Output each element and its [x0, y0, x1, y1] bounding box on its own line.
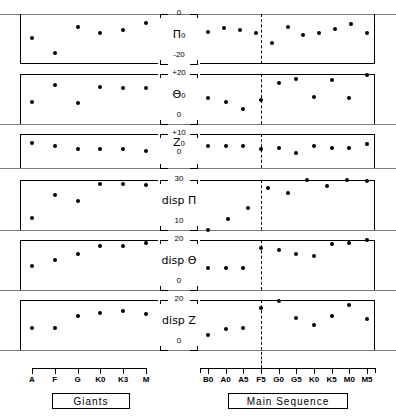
- data-point-disp-pi-giant-1: [53, 193, 57, 197]
- axis-tick-theta0-top-0: [160, 74, 168, 75]
- group-box-giants: Giants: [52, 393, 130, 409]
- data-point-disp-theta-ms-7: [330, 242, 334, 246]
- f5-divider-axis-stub: [261, 352, 262, 368]
- axis-vtick-theta0-top-r: [197, 74, 198, 78]
- panel-frame: [20, 14, 158, 64]
- axis-vtick-pi0-bottom-l: [160, 60, 161, 64]
- data-point-disp-theta-ms-0: [206, 266, 210, 270]
- axis-vtick-pi0-top-l: [160, 14, 161, 18]
- data-point-pi0-ms-0: [206, 30, 210, 34]
- spectral-tick-main-sequence-G0: [279, 368, 280, 374]
- data-point-disp-z-ms-2: [241, 326, 245, 330]
- axis-max-label-theta0: +20: [158, 69, 200, 77]
- data-point-theta0-ms-7: [330, 78, 334, 82]
- axis-tick-disp-pi-top-0: [160, 180, 168, 181]
- axis-tick-pi0-bottom-0: [160, 64, 168, 65]
- figure-root: 0Π₀-20+20Θ₀0+10Z₀030disp Π1020disp Θ020d…: [0, 0, 396, 420]
- data-point-z0-ms-0: [206, 144, 210, 148]
- spectral-tick-giants-K3: [123, 368, 124, 374]
- spectral-tick-main-sequence-A5: [243, 368, 244, 374]
- f5-divider-disp-pi: [261, 180, 262, 230]
- axis-vtick-disp-pi-bottom-r: [197, 226, 198, 230]
- data-point-pi0-giant-0: [30, 36, 34, 40]
- axis-label-z0: +10Z₀0: [158, 129, 200, 173]
- axis-tick-disp-pi-bottom-1: [190, 230, 198, 231]
- axis-vtick-z0-bottom-r: [197, 164, 198, 168]
- data-point-pi0-giant-1: [53, 51, 57, 55]
- axis-vtick-disp-z-bottom-r: [197, 346, 198, 350]
- data-point-disp-theta-ms-3: [259, 246, 263, 250]
- data-point-z0-ms-1: [224, 144, 228, 148]
- axis-vtick-pi0-top-r: [197, 14, 198, 18]
- spectral-label-giants-G: G: [74, 375, 80, 384]
- f5-divider-pi0: [261, 14, 262, 64]
- spectral-tick-giants-F: [55, 368, 56, 374]
- data-point-disp-z-giant-5: [144, 312, 148, 316]
- axis-min-label-disp-theta: 0: [158, 277, 200, 285]
- data-point-theta0-giant-0: [30, 100, 34, 104]
- axis-vtick-theta0-bottom-l: [160, 120, 161, 124]
- data-point-disp-pi-giant-0: [30, 216, 34, 220]
- axis-tick-theta0-bottom-0: [160, 124, 168, 125]
- panel-theta0-giants: [20, 74, 158, 124]
- data-point-disp-pi-giant-2: [76, 199, 80, 203]
- axis-min-label-z0: 0: [158, 148, 200, 156]
- data-point-theta0-giant-5: [144, 86, 148, 90]
- spectral-label-main-sequence-F5: F5: [256, 375, 265, 384]
- axis-tick-pi0-bottom-1: [190, 64, 198, 65]
- data-point-disp-z-giant-2: [76, 314, 80, 318]
- axis-vtick-disp-z-top-r: [197, 300, 198, 304]
- data-point-disp-theta-giant-5: [144, 241, 148, 245]
- data-point-z0-giant-1: [53, 144, 57, 148]
- spectral-label-main-sequence-G5: G5: [291, 375, 302, 384]
- data-point-disp-z-ms-3: [259, 306, 263, 310]
- axis-symbol-disp-theta: disp Θ: [158, 255, 200, 266]
- axis-min-label-disp-z: 0: [158, 337, 200, 345]
- panel-z0-main-sequence: [200, 134, 375, 168]
- axis-vtick-disp-pi-bottom-l: [160, 226, 161, 230]
- axis-vtick-disp-theta-top-r: [197, 240, 198, 244]
- data-point-z0-ms-8: [347, 146, 351, 150]
- axis-tick-theta0-bottom-1: [190, 124, 198, 125]
- axis-min-label-disp-pi: 10: [158, 217, 200, 225]
- spectral-label-giants-A: A: [29, 375, 35, 384]
- axis-label-pi0: 0Π₀-20: [158, 9, 200, 69]
- data-point-disp-pi-ms-0: [206, 228, 210, 232]
- axis-tick-pi0-top-0: [160, 14, 168, 15]
- data-point-z0-giant-0: [30, 141, 34, 145]
- spectral-label-giants-M: M: [143, 375, 150, 384]
- data-point-z0-ms-4: [277, 146, 281, 150]
- axis-vtick-z0-top-r: [197, 134, 198, 138]
- panel-frame: [200, 300, 375, 350]
- data-point-disp-pi-giant-4: [121, 182, 125, 186]
- panel-frame: [20, 134, 158, 168]
- axis-symbol-disp-pi: disp Π: [158, 195, 200, 206]
- data-point-pi0-giant-2: [76, 25, 80, 29]
- spectral-label-main-sequence-A0: A0: [221, 375, 231, 384]
- spectral-label-main-sequence-K0: K0: [309, 375, 319, 384]
- spectral-label-main-sequence-A5: A5: [238, 375, 248, 384]
- data-point-z0-ms-7: [330, 146, 334, 150]
- axis-vtick-disp-theta-top-l: [160, 240, 161, 244]
- axis-tick-z0-bottom-0: [160, 168, 168, 169]
- group-box-main-sequence: Main Sequence: [228, 393, 348, 409]
- data-point-theta0-giant-2: [76, 101, 80, 105]
- axis-vtick-disp-theta-bottom-l: [160, 286, 161, 290]
- data-point-z0-giant-2: [76, 147, 80, 151]
- panel-disp-z-main-sequence: [200, 300, 375, 350]
- spectral-tick-main-sequence-G5: [296, 368, 297, 374]
- axis-min-label-pi0: -20: [158, 51, 200, 59]
- axis-vtick-theta0-bottom-r: [197, 120, 198, 124]
- axis-max-label-disp-z: 20: [158, 295, 200, 303]
- axis-label-theta0: +20Θ₀0: [158, 69, 200, 129]
- axis-vtick-theta0-top-l: [160, 74, 161, 78]
- data-point-disp-pi-ms-4: [286, 191, 290, 195]
- data-point-disp-theta-ms-8: [347, 241, 351, 245]
- data-point-disp-pi-ms-3: [266, 186, 270, 190]
- data-point-disp-pi-ms-1: [226, 217, 230, 221]
- data-point-theta0-giant-3: [98, 85, 102, 89]
- axis-tick-disp-z-bottom-0: [160, 350, 168, 351]
- axis-symbol-pi0: Π₀: [158, 29, 200, 40]
- panel-frame: [200, 134, 375, 168]
- data-point-disp-z-ms-9: [365, 317, 369, 321]
